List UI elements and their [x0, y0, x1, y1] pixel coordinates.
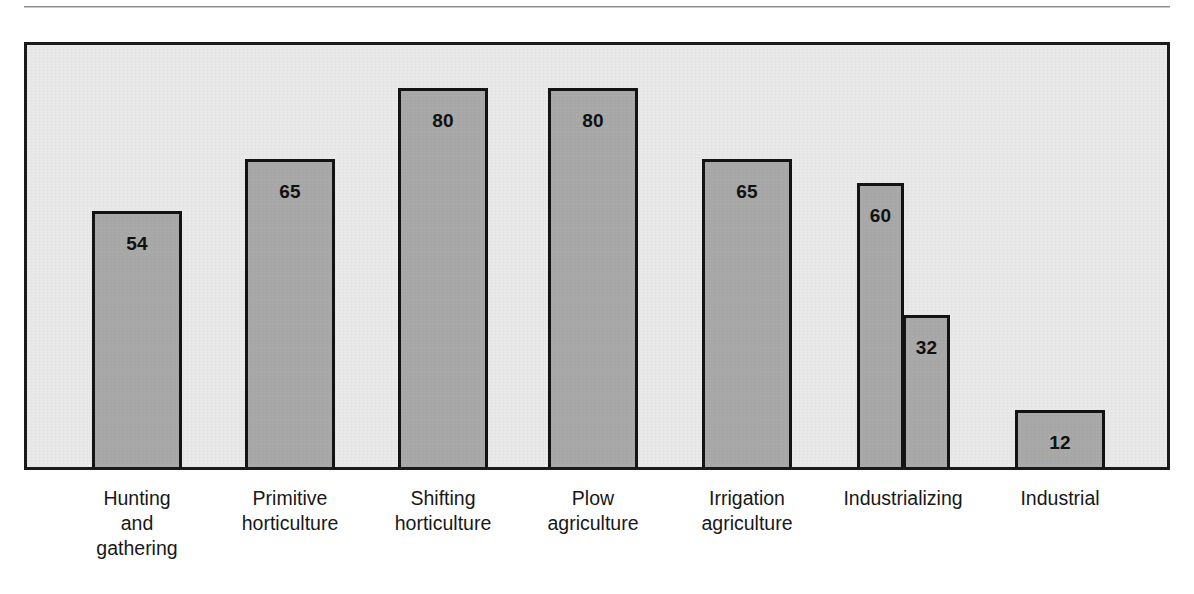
bars-layer: 5465808065603212 — [27, 45, 1167, 467]
bar[interactable]: 65 — [702, 159, 792, 467]
bar-value-label: 80 — [401, 110, 485, 132]
bar[interactable]: 80 — [398, 88, 488, 467]
category-label: Industrial — [910, 486, 1194, 511]
bar-value-label: 54 — [95, 233, 179, 255]
category-label-line: agriculture — [597, 511, 897, 536]
bar[interactable]: 60 — [857, 183, 904, 467]
bar[interactable]: 80 — [548, 88, 638, 467]
bar-value-label: 65 — [705, 181, 789, 203]
chart-plot-area: 5465808065603212 — [24, 42, 1170, 470]
category-label-line: Industrial — [910, 486, 1194, 511]
page-top-rule-shadow — [24, 7, 1170, 8]
category-label-line: gathering — [0, 536, 287, 561]
bar-value-label: 80 — [551, 110, 635, 132]
figure-container: 5465808065603212 HuntingandgatheringPrim… — [0, 0, 1194, 594]
bar-value-label: 60 — [860, 205, 901, 227]
bar[interactable]: 32 — [903, 315, 950, 467]
bar[interactable]: 54 — [92, 211, 182, 467]
bar[interactable]: 12 — [1015, 410, 1105, 467]
bar-value-label: 65 — [248, 181, 332, 203]
bar-value-label: 12 — [1018, 432, 1102, 454]
bar[interactable]: 65 — [245, 159, 335, 467]
bar-value-label: 32 — [906, 337, 947, 359]
